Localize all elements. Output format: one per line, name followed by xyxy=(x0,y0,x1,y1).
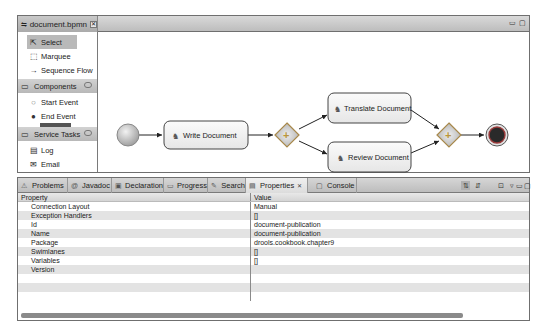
start-event[interactable] xyxy=(117,124,139,146)
bpmn-file-icon: ⇋ xyxy=(21,21,28,28)
table-row[interactable] xyxy=(18,274,529,283)
table-row[interactable]: Version xyxy=(18,265,529,274)
tab-label: Declaration xyxy=(125,181,163,190)
palette-group-components[interactable]: ▭ Components xyxy=(18,79,97,93)
svg-text:+: + xyxy=(283,129,289,141)
horizontal-scrollbar[interactable] xyxy=(21,313,463,318)
task-icon: ♞ xyxy=(172,132,179,141)
progress-icon: ▭ xyxy=(167,182,175,190)
tab-properties[interactable]: ▤ Properties ✕ xyxy=(246,178,308,193)
close-icon[interactable]: ✕ xyxy=(297,182,302,189)
show-advanced-icon[interactable]: ⇵ xyxy=(473,181,482,190)
log-icon: ▤ xyxy=(29,146,38,155)
flow-split-translate[interactable] xyxy=(299,115,327,129)
palette-item-log[interactable]: ▤ Log xyxy=(18,143,97,157)
task-translate-document[interactable]: ♞ Translate Document xyxy=(328,93,412,123)
tab-label: Problems xyxy=(32,181,64,190)
problems-icon: ⚠ xyxy=(21,182,30,190)
property-name: Id xyxy=(18,220,251,229)
folder-icon: ▭ xyxy=(21,82,31,91)
property-value[interactable]: document-publication xyxy=(251,220,529,229)
editor-tab-document[interactable]: ⇋ document.bpmn ✕ xyxy=(18,16,98,32)
property-value[interactable]: drools.cookbook.chapter9 xyxy=(251,238,529,247)
table-row[interactable]: Exception Handlers[] xyxy=(18,211,529,220)
search-icon: ✎ xyxy=(211,182,219,190)
property-value[interactable]: Manual xyxy=(251,202,529,211)
javadoc-icon: @ xyxy=(71,182,80,189)
table-header: Property Value xyxy=(18,193,529,202)
tab-declaration[interactable]: ▣ Declaration xyxy=(112,178,164,193)
flow-translate-join[interactable] xyxy=(411,110,439,129)
task-label: Write Document xyxy=(183,131,238,140)
editor-tab-title: document.bpmn xyxy=(30,20,87,29)
pin-icon[interactable]: ⊡ xyxy=(496,181,505,190)
property-name: Version xyxy=(18,265,251,274)
column-header-property[interactable]: Property xyxy=(18,193,251,201)
marquee-icon: ⬚ xyxy=(29,52,38,61)
svg-text:+: + xyxy=(445,129,451,141)
property-value[interactable] xyxy=(251,265,529,274)
bottom-panel: ⚠ Problems @ Javadoc ▣ Declaration ▭ Pro… xyxy=(17,177,530,321)
end-event-icon: ● xyxy=(29,112,38,121)
property-value[interactable] xyxy=(251,283,529,292)
show-categories-icon[interactable]: ⇅ xyxy=(461,181,470,190)
property-value[interactable]: [] xyxy=(251,211,529,220)
task-icon: ♞ xyxy=(334,105,341,114)
tab-console[interactable]: ▢ Console xyxy=(313,178,357,193)
palette-item-start-event[interactable]: ○ Start Event xyxy=(18,95,97,109)
collapse-icon[interactable] xyxy=(84,130,92,136)
palette-item-end-event[interactable]: ● End Event xyxy=(18,109,97,123)
palette-group-service-tasks[interactable]: ▭ Service Tasks xyxy=(18,127,97,141)
palette-item-label: End Event xyxy=(41,112,76,121)
property-value[interactable] xyxy=(251,292,529,301)
tab-problems[interactable]: ⚠ Problems xyxy=(18,178,68,193)
table-row[interactable] xyxy=(18,283,529,292)
tab-javadoc[interactable]: @ Javadoc xyxy=(68,178,112,193)
tab-label: Progress xyxy=(177,181,207,190)
tab-label: Javadoc xyxy=(82,181,110,190)
cursor-icon: ⇱ xyxy=(29,38,38,47)
palette-tool-label: Sequence Flow xyxy=(41,66,93,75)
task-write-document[interactable]: ♞ Write Document xyxy=(164,121,248,149)
collapse-icon[interactable] xyxy=(84,82,92,88)
palette-tool-marquee[interactable]: ⬚ Marquee xyxy=(18,49,97,63)
tab-search[interactable]: ✎ Search xyxy=(208,178,246,193)
property-name: Swimlanes xyxy=(18,247,251,256)
table-row[interactable]: Variables[] xyxy=(18,256,529,265)
task-review-document[interactable]: ♞ Review Document xyxy=(328,142,411,172)
palette-item-label: Start Event xyxy=(41,98,78,107)
palette-tool-sequence-flow[interactable]: → Sequence Flow xyxy=(18,63,97,77)
properties-icon: ▤ xyxy=(249,182,258,190)
table-row[interactable]: Connection LayoutManual xyxy=(18,202,529,211)
editor-tab-bar: ⇋ document.bpmn ✕ ▭ ▢ xyxy=(18,16,529,32)
parallel-gateway-join[interactable]: + xyxy=(437,123,461,147)
flow-split-review[interactable] xyxy=(299,141,327,154)
parallel-gateway-split[interactable]: + xyxy=(275,123,299,147)
column-header-value[interactable]: Value xyxy=(251,193,529,201)
table-row[interactable]: Iddocument-publication xyxy=(18,220,529,229)
table-row[interactable] xyxy=(18,292,529,301)
end-event[interactable] xyxy=(486,124,508,146)
palette-item-email[interactable]: ✉ Email xyxy=(18,157,97,171)
property-value[interactable] xyxy=(251,274,529,283)
property-value[interactable]: [] xyxy=(251,247,529,256)
property-name: Name xyxy=(18,229,251,238)
tab-progress[interactable]: ▭ Progress xyxy=(164,178,208,193)
table-body: Connection LayoutManualException Handler… xyxy=(18,202,529,301)
console-icon: ▢ xyxy=(316,182,325,190)
table-row[interactable]: Packagedrools.cookbook.chapter9 xyxy=(18,238,529,247)
palette-tool-select[interactable]: ⇱ Select xyxy=(27,35,77,49)
maximize-icon[interactable]: ▢ xyxy=(523,181,532,190)
property-value[interactable]: [] xyxy=(251,256,529,265)
maximize-icon[interactable]: ▢ xyxy=(518,19,526,27)
diagram-canvas[interactable]: ♞ Write Document + ♞ Translate Document … xyxy=(99,32,529,172)
close-icon[interactable]: ✕ xyxy=(90,21,97,28)
table-row[interactable]: Swimlanes[] xyxy=(18,247,529,256)
folder-icon: ▭ xyxy=(21,130,31,139)
minimize-icon[interactable]: ▭ xyxy=(508,19,516,27)
property-value[interactable]: document-publication xyxy=(251,229,529,238)
palette-group-label: Service Tasks xyxy=(34,130,80,139)
table-row[interactable]: Namedocument-publication xyxy=(18,229,529,238)
flow-review-join[interactable] xyxy=(411,141,439,153)
palette-tool-label: Marquee xyxy=(41,52,71,61)
